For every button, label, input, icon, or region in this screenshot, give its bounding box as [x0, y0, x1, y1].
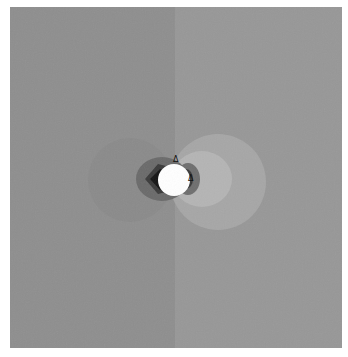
- contour-field: [10, 7, 342, 348]
- right-marker-icon: Δ: [188, 175, 193, 183]
- top-marker-icon: Δ: [173, 156, 178, 164]
- contour-plot-frame: Δ Δ: [10, 7, 342, 348]
